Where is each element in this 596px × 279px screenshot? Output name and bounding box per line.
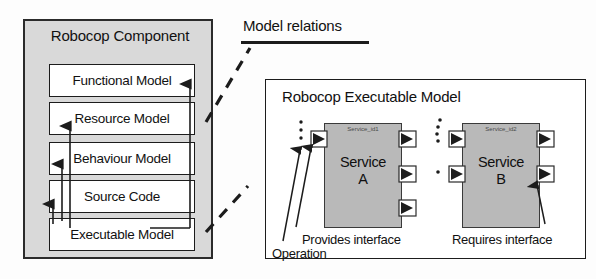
executable-panel-title: Robocop Executable Model [282, 88, 461, 105]
component-panel-title: Robocop Component [25, 27, 215, 44]
model-box-behaviour: Behaviour Model [49, 142, 195, 175]
caption-operation: Operation [272, 246, 326, 261]
service-b-name-line1: Service [463, 154, 539, 171]
caption-provides-interface: Provides interface [302, 232, 401, 247]
model-box-executable: Executable Model [49, 218, 195, 251]
service-b-name: Service B [463, 154, 539, 188]
service-b-id-label: Service_id2 [463, 126, 539, 132]
service-b-name-line2: B [463, 171, 539, 188]
model-box-source-code: Source Code [49, 180, 195, 213]
service-a-name-line1: Service [325, 154, 401, 171]
service-a-name: Service A [325, 154, 401, 188]
caption-requires-interface: Requires interface [452, 232, 552, 247]
model-box-functional: Functional Model [49, 64, 195, 97]
model-relations-label: Model relations [243, 17, 342, 34]
model-relations-underline [241, 41, 369, 44]
diagram-canvas: Robocop Component Functional Model Resou… [0, 0, 596, 279]
model-box-resource: Resource Model [49, 102, 195, 135]
service-a-name-line2: A [325, 171, 401, 188]
service-box-a: Service_id1 Service A [324, 123, 402, 228]
service-box-b: Service_id2 Service B [462, 123, 540, 228]
robocop-component-panel: Robocop Component Functional Model Resou… [23, 19, 213, 259]
service-a-id-label: Service_id1 [325, 126, 401, 132]
robocop-executable-model-panel: Robocop Executable Model Service_id1 Ser… [265, 79, 586, 259]
